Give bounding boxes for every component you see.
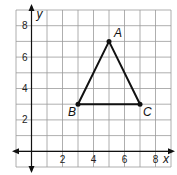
y-tick-label: 4: [22, 83, 28, 94]
x-arrow-right-icon: [168, 148, 175, 154]
x-arrow-left-icon: [12, 148, 19, 154]
x-tick-label: 8: [153, 154, 159, 165]
x-tick-label: 6: [122, 154, 128, 165]
point-a: [107, 39, 112, 44]
point-label-b: B: [68, 105, 76, 119]
point-label-a: A: [113, 26, 122, 40]
y-axis-label: y: [36, 7, 44, 21]
coordinate-plane: 24682468 ABC x y: [0, 0, 177, 175]
tick-labels: 24682468: [22, 20, 159, 165]
x-tick-label: 4: [91, 154, 97, 165]
grid: [16, 10, 171, 167]
y-tick-label: 8: [22, 20, 28, 31]
x-axis-label: x: [162, 152, 170, 166]
point-label-c: C: [143, 105, 152, 119]
y-tick-label: 2: [22, 114, 28, 125]
x-tick-label: 2: [60, 154, 66, 165]
y-arrow-up-icon: [29, 4, 35, 11]
y-tick-label: 6: [22, 52, 28, 63]
y-arrow-down-icon: [29, 166, 35, 173]
point-b: [76, 102, 81, 107]
point-c: [138, 102, 143, 107]
